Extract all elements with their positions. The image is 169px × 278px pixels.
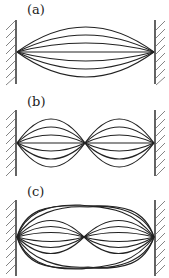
right-wall-hatch-b	[156, 111, 165, 176]
panel-c-label: (c)	[27, 184, 44, 199]
right-wall-hatch-c	[156, 201, 165, 274]
panel-b-label: (b)	[27, 94, 45, 109]
panel-b: (b)	[6, 94, 165, 176]
wave-curves-b	[17, 119, 154, 167]
left-wall-hatch-a	[6, 21, 15, 85]
wave-curves-a	[17, 27, 154, 77]
left-wall-hatch-c	[6, 201, 15, 274]
wave-curves-c	[17, 205, 154, 269]
panel-c: (c)	[6, 184, 165, 276]
right-wall-hatch-a	[156, 21, 165, 85]
panel-a-label: (a)	[27, 2, 45, 17]
standing-wave-figure: (a) (b)	[0, 0, 169, 278]
left-wall-hatch-b	[6, 111, 15, 176]
panel-a: (a)	[6, 2, 165, 85]
